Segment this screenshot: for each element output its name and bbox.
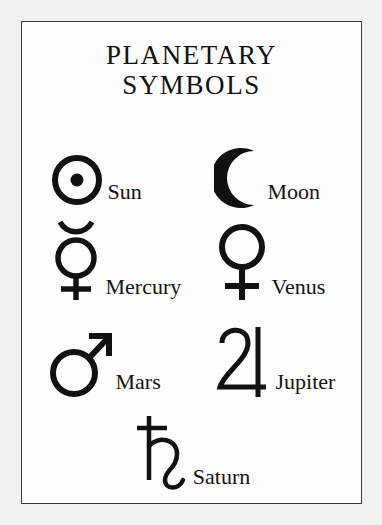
symbol-label-mars: Mars [114, 371, 161, 399]
symbol-row: Sun Moon [22, 114, 361, 209]
symbol-row: Saturn [22, 399, 361, 494]
moon-icon [214, 147, 266, 209]
symbol-label-venus: Venus [270, 276, 326, 304]
symbol-entry-moon: Moon [192, 147, 358, 209]
sun-icon [48, 151, 106, 209]
page-title: PLANETARY SYMBOLS [22, 40, 361, 100]
symbol-label-jupiter: Jupiter [276, 371, 336, 399]
venus-icon [214, 222, 270, 304]
symbol-entry-saturn: Saturn [82, 410, 302, 494]
title-line-2: SYMBOLS [22, 70, 361, 100]
symbol-label-moon: Moon [266, 181, 321, 209]
symbol-entry-jupiter: Jupiter [192, 321, 358, 399]
symbol-entry-mars: Mars [26, 329, 192, 399]
mars-icon [48, 329, 114, 399]
symbol-row: Mars Jupiter [22, 304, 361, 399]
symbol-label-mercury: Mercury [104, 276, 182, 304]
jupiter-icon [214, 321, 276, 399]
saturn-icon [133, 410, 193, 494]
symbol-label-saturn: Saturn [193, 466, 250, 494]
symbol-entry-venus: Venus [192, 222, 358, 304]
mercury-icon [48, 218, 104, 304]
symbol-entry-sun: Sun [26, 151, 192, 209]
symbol-label-sun: Sun [106, 181, 142, 209]
symbol-entry-mercury: Mercury [26, 218, 192, 304]
title-line-1: PLANETARY [22, 40, 361, 70]
symbol-grid: Sun Moon Mercury [22, 114, 361, 494]
symbol-row: Mercury Venus [22, 209, 361, 304]
planetary-symbols-poster: PLANETARY SYMBOLS Sun Moon [21, 21, 362, 504]
